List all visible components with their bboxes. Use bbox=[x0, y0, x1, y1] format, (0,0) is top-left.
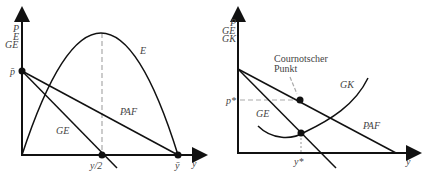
left-y-label-ge: GE bbox=[5, 39, 18, 50]
left-point-y-bar bbox=[175, 152, 182, 159]
left-diagram: P E GE p̄ E PAF GE y/2 ȳ y bbox=[5, 14, 200, 171]
left-point-y-half bbox=[99, 152, 106, 159]
right-label-paf: PAF bbox=[362, 120, 381, 131]
right-label-ge: GE bbox=[256, 108, 269, 119]
right-y-label-gk: GK bbox=[222, 33, 237, 44]
right-annotation-pointer bbox=[290, 77, 297, 94]
right-label-gk: GK bbox=[340, 79, 355, 90]
left-curve-paf bbox=[22, 71, 178, 155]
left-label-ge: GE bbox=[56, 125, 69, 136]
right-x-label: y bbox=[405, 156, 411, 167]
left-point-p-bar bbox=[19, 68, 26, 75]
left-label-y-half: y/2 bbox=[89, 160, 102, 171]
left-x-label: y bbox=[191, 158, 197, 169]
left-label-y-bar: ȳ bbox=[174, 160, 180, 171]
right-annotation-line2: Punkt bbox=[274, 63, 298, 74]
left-label-e: E bbox=[139, 45, 146, 56]
right-diagram: P GE GK Cournotscher Punkt p* GK GE PAF … bbox=[222, 14, 414, 168]
right-label-p-star: p* bbox=[225, 95, 236, 106]
left-label-paf: PAF bbox=[119, 106, 138, 117]
right-label-y-star: y* bbox=[293, 156, 303, 167]
diagram-canvas: P E GE p̄ E PAF GE y/2 ȳ y P GE GK Courn… bbox=[0, 0, 428, 176]
left-label-p-bar: p̄ bbox=[9, 66, 15, 77]
right-point-cournot bbox=[297, 97, 304, 104]
right-point-ge-gk bbox=[298, 130, 305, 137]
